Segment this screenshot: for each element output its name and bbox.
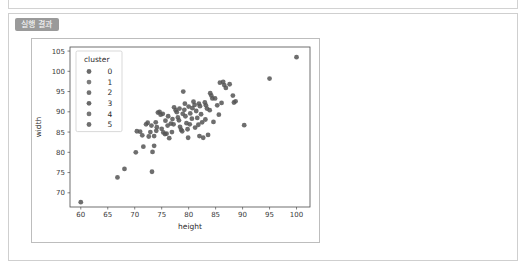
data-point xyxy=(163,118,168,123)
previous-cell-strip xyxy=(8,0,518,9)
data-point xyxy=(294,55,299,60)
data-point xyxy=(197,134,202,139)
y-tick-label: 70 xyxy=(56,189,65,197)
data-point xyxy=(140,133,145,138)
data-point xyxy=(188,111,193,116)
x-tick-label: 60 xyxy=(76,211,85,219)
y-tick-label: 80 xyxy=(56,149,65,157)
data-point xyxy=(216,112,221,117)
data-point xyxy=(195,115,200,120)
data-point xyxy=(182,101,187,106)
data-point xyxy=(187,122,192,127)
data-point xyxy=(180,129,185,134)
scatter-plot: 6065707580859095100 707580859095100105 c… xyxy=(32,39,319,242)
y-tick-label: 75 xyxy=(56,169,65,177)
data-point xyxy=(267,76,272,81)
data-point xyxy=(207,108,212,113)
data-point xyxy=(198,104,203,109)
data-point xyxy=(167,136,172,141)
legend-marker-icon xyxy=(87,122,92,127)
x-tick-label: 100 xyxy=(290,211,303,219)
data-point xyxy=(170,130,175,135)
data-point xyxy=(180,111,185,116)
data-point xyxy=(233,99,238,104)
legend-entry-label: 5 xyxy=(108,120,113,129)
data-point xyxy=(153,120,158,125)
data-point xyxy=(164,131,169,136)
x-tick-label: 90 xyxy=(238,211,247,219)
data-point xyxy=(141,144,146,149)
legend-entry-label: 2 xyxy=(108,88,113,97)
data-point xyxy=(149,123,154,128)
y-axis-ticks: 707580859095100105 xyxy=(52,48,70,198)
y-tick-label: 100 xyxy=(52,68,65,76)
data-point xyxy=(150,150,155,155)
data-point xyxy=(78,200,83,205)
legend-entry-label: 3 xyxy=(108,99,113,108)
y-tick-label: 85 xyxy=(56,129,65,137)
chart-legend: cluster012345 xyxy=(76,51,122,132)
data-point xyxy=(186,135,191,140)
data-point xyxy=(190,106,195,111)
data-point xyxy=(177,118,182,123)
data-point xyxy=(227,82,232,87)
data-point xyxy=(177,106,182,111)
legend-entry-label: 4 xyxy=(108,110,113,119)
legend-title: cluster xyxy=(84,55,110,64)
x-tick-label: 95 xyxy=(265,211,274,219)
data-point xyxy=(146,134,151,139)
data-point xyxy=(133,150,138,155)
legend-entry-label: 1 xyxy=(108,78,113,87)
legend-marker-icon xyxy=(87,101,92,106)
data-point xyxy=(160,111,165,116)
x-axis-label: height xyxy=(178,222,202,231)
x-tick-label: 65 xyxy=(103,211,112,219)
data-point xyxy=(203,117,208,122)
figure-container: 6065707580859095100 707580859095100105 c… xyxy=(31,38,320,243)
y-tick-label: 105 xyxy=(52,48,65,56)
data-point xyxy=(154,125,159,130)
legend-marker-icon xyxy=(87,90,92,95)
y-axis-label: width xyxy=(34,116,43,137)
x-tick-label: 70 xyxy=(130,211,139,219)
legend-marker-icon xyxy=(87,80,92,85)
data-point xyxy=(213,96,218,101)
data-point xyxy=(215,103,220,108)
legend-entry-label: 0 xyxy=(108,67,113,76)
data-point xyxy=(166,114,171,119)
data-point xyxy=(196,122,201,127)
data-point xyxy=(150,169,155,174)
y-tick-label: 95 xyxy=(56,88,65,96)
result-label: 실행 결과 xyxy=(15,18,59,31)
y-tick-label: 90 xyxy=(56,108,65,116)
legend-marker-icon xyxy=(87,69,92,74)
data-point xyxy=(211,120,216,125)
legend-marker-icon xyxy=(87,112,92,117)
data-point xyxy=(148,130,153,135)
output-panel: 실행 결과 6065707580859095100 70758085909510… xyxy=(8,13,518,261)
data-point xyxy=(115,175,120,180)
data-point xyxy=(181,89,186,94)
data-point xyxy=(206,132,211,137)
x-tick-label: 75 xyxy=(157,211,166,219)
data-point xyxy=(199,112,204,117)
data-point xyxy=(219,100,224,105)
data-point xyxy=(152,134,157,139)
data-point xyxy=(122,167,127,172)
data-point xyxy=(185,127,190,132)
data-point xyxy=(152,143,157,148)
data-point xyxy=(170,117,175,122)
data-point xyxy=(242,123,247,128)
data-point xyxy=(171,122,176,127)
data-point xyxy=(230,93,235,98)
x-axis-ticks: 6065707580859095100 xyxy=(76,207,303,219)
x-tick-label: 85 xyxy=(211,211,220,219)
data-point xyxy=(223,86,228,91)
x-tick-label: 80 xyxy=(184,211,193,219)
data-point xyxy=(189,116,194,121)
